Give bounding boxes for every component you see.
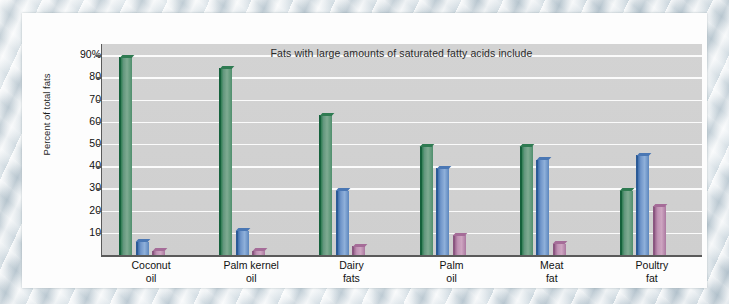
bar-face bbox=[420, 146, 433, 255]
y-tick-label: 40 bbox=[67, 159, 101, 171]
bar-face bbox=[319, 115, 332, 255]
bar bbox=[520, 146, 533, 255]
bar-top-cap bbox=[536, 157, 551, 160]
x-tick-label-line: Dairy bbox=[296, 259, 406, 272]
x-tick-label-line: oil bbox=[196, 272, 306, 285]
bar-group bbox=[502, 44, 602, 255]
bar bbox=[653, 206, 666, 255]
bar-group bbox=[301, 44, 401, 255]
bar-top-cap bbox=[352, 244, 367, 247]
bar bbox=[553, 244, 566, 255]
bar bbox=[152, 251, 165, 255]
y-tick-label: 60 bbox=[67, 115, 101, 127]
bar-face bbox=[236, 231, 249, 255]
y-tick-label: 20 bbox=[67, 204, 101, 216]
bar-face bbox=[252, 251, 265, 255]
bar-top-cap bbox=[219, 66, 234, 69]
bar-top-cap bbox=[119, 55, 134, 58]
x-axis-line bbox=[101, 255, 702, 257]
bar-top-cap bbox=[252, 248, 267, 251]
x-tick-label: Poultryfat bbox=[597, 259, 707, 284]
bar-face bbox=[219, 68, 232, 255]
y-tick-label: 50 bbox=[67, 137, 101, 149]
y-tick-label: 10 bbox=[67, 226, 101, 238]
bar-face bbox=[636, 155, 649, 255]
y-axis-ticks: 90%8070605040302010 bbox=[58, 13, 101, 288]
bar-face bbox=[119, 57, 132, 255]
bar bbox=[453, 235, 466, 255]
x-tick-label-line: Meat bbox=[497, 259, 607, 272]
x-tick-label-line: Palm bbox=[397, 259, 507, 272]
y-tick-label: 80 bbox=[67, 70, 101, 82]
bar bbox=[620, 191, 633, 255]
x-tick-label-line: Coconut bbox=[96, 259, 206, 272]
bar-top-cap bbox=[420, 144, 435, 147]
bar-group bbox=[402, 44, 502, 255]
bar-face bbox=[536, 160, 549, 256]
bar-top-cap bbox=[453, 233, 468, 236]
bar-face bbox=[136, 242, 149, 255]
marble-border-frame: Fats with large amounts of saturated fat… bbox=[0, 0, 729, 304]
bar-face bbox=[336, 191, 349, 255]
x-tick-label-line: oil bbox=[397, 272, 507, 285]
chart-paper: Fats with large amounts of saturated fat… bbox=[22, 13, 707, 288]
y-axis-label: Percent of total fats bbox=[41, 35, 52, 195]
bar-group bbox=[101, 44, 201, 255]
bar-face bbox=[453, 235, 466, 255]
x-tick-label-line: Palm kernel bbox=[196, 259, 306, 272]
bar-top-cap bbox=[152, 248, 167, 251]
bar-face bbox=[620, 191, 633, 255]
x-tick-label-line: fat bbox=[497, 272, 607, 285]
bar-group bbox=[201, 44, 301, 255]
x-tick-label: Palmoil bbox=[397, 259, 507, 284]
bar bbox=[136, 242, 149, 255]
bar bbox=[119, 57, 132, 255]
x-tick-label-line: Poultry bbox=[597, 259, 707, 272]
x-tick-label-line: oil bbox=[96, 272, 206, 285]
x-tick-label: Coconutoil bbox=[96, 259, 206, 284]
bar-face bbox=[436, 168, 449, 255]
bar bbox=[536, 160, 549, 256]
x-tick-label: Dairyfats bbox=[296, 259, 406, 284]
bar-top-cap bbox=[319, 113, 334, 116]
bar-face bbox=[352, 246, 365, 255]
bar-top-cap bbox=[636, 153, 651, 156]
bar-face bbox=[653, 206, 666, 255]
x-tick-label: Palm kerneloil bbox=[196, 259, 306, 284]
x-tick-label-line: fats bbox=[296, 272, 406, 285]
bar-top-cap bbox=[436, 166, 451, 169]
bar-face bbox=[553, 244, 566, 255]
bar bbox=[352, 246, 365, 255]
y-tick-label: 30 bbox=[67, 181, 101, 193]
bar bbox=[420, 146, 433, 255]
y-tick-label: 70 bbox=[67, 93, 101, 105]
y-tick-label: 90% bbox=[67, 48, 101, 60]
bar bbox=[236, 231, 249, 255]
bar-top-cap bbox=[520, 144, 535, 147]
bar-group bbox=[602, 44, 702, 255]
bar-face bbox=[520, 146, 533, 255]
bar bbox=[319, 115, 332, 255]
bar bbox=[336, 191, 349, 255]
x-tick-label-line: fat bbox=[597, 272, 707, 285]
bar bbox=[219, 68, 232, 255]
bar-face bbox=[152, 251, 165, 255]
bar bbox=[636, 155, 649, 255]
bar bbox=[252, 251, 265, 255]
bar bbox=[436, 168, 449, 255]
x-tick-label: Meatfat bbox=[497, 259, 607, 284]
